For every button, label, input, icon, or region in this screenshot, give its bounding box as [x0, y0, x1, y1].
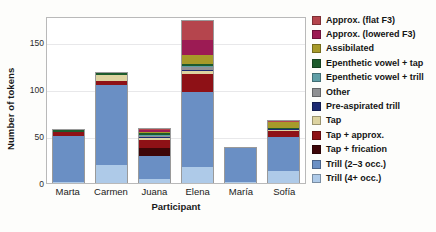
legend-label: Other — [326, 88, 350, 97]
legend-label: Assibilated — [326, 44, 374, 53]
y-axis-tick-label: 0 — [18, 179, 44, 189]
legend-color-swatch-icon — [312, 145, 321, 154]
bar-segment[interactable] — [268, 137, 300, 171]
legend-label: Approx. (lowered F3) — [326, 30, 416, 39]
legend-label: Tap + approx. — [326, 131, 384, 140]
bar-slot — [47, 18, 90, 183]
x-axis-tick-label: Sofía — [263, 186, 306, 202]
legend-label: Trill (4+ occ.) — [326, 174, 381, 183]
legend-label: Trill (2–3 occ.) — [326, 160, 386, 169]
y-axis-tick-label: 100 — [18, 85, 44, 95]
x-axis-tick-label: Elena — [176, 186, 219, 202]
legend-color-swatch-icon — [312, 16, 321, 25]
bar-segment[interactable] — [225, 148, 257, 182]
bar-slot — [262, 18, 305, 183]
bar-slot — [133, 18, 176, 183]
bar-slot — [176, 18, 219, 183]
bar-segment[interactable] — [182, 74, 214, 92]
bar-segment[interactable] — [182, 55, 214, 64]
bar-segment[interactable] — [96, 165, 128, 183]
bar-segment[interactable] — [139, 156, 171, 179]
bar-segment[interactable] — [96, 85, 128, 165]
bar-segment[interactable] — [268, 171, 300, 183]
x-axis-tick-label: Marta — [46, 186, 89, 202]
stacked-bar[interactable] — [267, 120, 301, 183]
legend-item[interactable]: Tap — [312, 114, 436, 128]
stacked-bar[interactable] — [224, 147, 258, 183]
legend-color-swatch-icon — [312, 160, 321, 169]
legend-color-swatch-icon — [312, 59, 321, 68]
legend-color-swatch-icon — [312, 174, 321, 183]
legend-label: Tap + frication — [326, 145, 387, 154]
bar-segment[interactable] — [53, 136, 85, 182]
bar-segment[interactable] — [182, 92, 214, 167]
legend-item[interactable]: Epenthetic vowel + trill — [312, 71, 436, 85]
bar-segment[interactable] — [139, 179, 171, 183]
legend-item[interactable]: Approx. (lowered F3) — [312, 27, 436, 41]
chart-figure: Number of tokens 050100150 MartaCarmenJu… — [0, 0, 436, 232]
x-axis-tick-label: Juana — [133, 186, 176, 202]
bar-group — [47, 18, 305, 183]
bar-slot — [219, 18, 262, 183]
stacked-bar[interactable] — [52, 129, 86, 183]
bar-segment[interactable] — [225, 182, 257, 183]
y-axis-tick-label: 50 — [18, 132, 44, 142]
bar-segment[interactable] — [182, 40, 214, 54]
y-axis-tick-label: 150 — [18, 38, 44, 48]
legend-color-swatch-icon — [312, 102, 321, 111]
stacked-bar[interactable] — [95, 72, 129, 183]
legend-item[interactable]: Assibilated — [312, 42, 436, 56]
legend-item[interactable]: Trill (4+ occ.) — [312, 171, 436, 185]
legend-label: Epenthetic vowel + tap — [326, 59, 423, 68]
legend-color-swatch-icon — [312, 88, 321, 97]
x-axis-tick-label: Carmen — [89, 186, 132, 202]
legend-item[interactable]: Epenthetic vowel + tap — [312, 56, 436, 70]
x-axis-title: Participant — [46, 201, 306, 212]
bar-segment[interactable] — [53, 182, 85, 183]
stacked-bar[interactable] — [138, 128, 172, 183]
legend-item[interactable]: Pre-aspirated trill — [312, 99, 436, 113]
y-axis-tick-labels: 050100150 — [14, 0, 44, 232]
bar-segment[interactable] — [182, 167, 214, 183]
legend-label: Pre-aspirated trill — [326, 102, 400, 111]
stacked-bar[interactable] — [181, 20, 215, 183]
legend-color-swatch-icon — [312, 73, 321, 82]
bar-segment[interactable] — [139, 140, 171, 148]
chart-legend: Approx. (flat F3)Approx. (lowered F3)Ass… — [312, 13, 436, 186]
legend-label: Epenthetic vowel + trill — [326, 73, 424, 82]
bar-segment[interactable] — [139, 148, 171, 156]
x-axis-tick-labels: MartaCarmenJuanaElenaMaríaSofía — [46, 186, 306, 202]
legend-item[interactable]: Trill (2–3 occ.) — [312, 157, 436, 171]
legend-item[interactable]: Tap + approx. — [312, 128, 436, 142]
plot-area — [46, 17, 306, 184]
legend-color-swatch-icon — [312, 44, 321, 53]
legend-color-swatch-icon — [312, 116, 321, 125]
legend-item[interactable]: Other — [312, 85, 436, 99]
x-axis-tick-label: María — [219, 186, 262, 202]
legend-item[interactable]: Approx. (flat F3) — [312, 13, 436, 27]
bar-slot — [90, 18, 133, 183]
legend-color-swatch-icon — [312, 30, 321, 39]
legend-label: Tap — [326, 116, 341, 125]
bar-segment[interactable] — [182, 21, 214, 41]
legend-color-swatch-icon — [312, 131, 321, 140]
legend-item[interactable]: Tap + frication — [312, 143, 436, 157]
legend-label: Approx. (flat F3) — [326, 16, 395, 25]
